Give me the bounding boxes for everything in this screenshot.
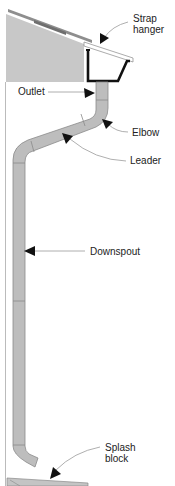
label-splash-block: Splash block	[105, 442, 136, 464]
splash-block-leader-line	[56, 447, 100, 470]
label-elbow: Elbow	[132, 127, 159, 138]
label-strap-hanger: Strap hanger	[133, 13, 164, 35]
elbow-arrow-icon	[102, 119, 113, 129]
strap-hanger-arrow-icon	[100, 33, 109, 44]
label-outlet: Outlet	[18, 86, 45, 97]
downspout-pipe	[13, 82, 108, 467]
outlet-arrow-icon	[84, 88, 95, 98]
leader-leader-line	[70, 139, 126, 161]
elbow-leader-line	[108, 124, 128, 132]
gutter-downspout-diagram: Strap hanger Outlet Elbow Leader Downspo…	[0, 0, 175, 486]
downspout-arrow-icon	[24, 246, 35, 256]
strap-hanger-leader-line	[104, 22, 128, 38]
splash-block-arrow-icon	[50, 467, 61, 479]
diagram-canvas	[0, 0, 175, 486]
splash-block	[7, 478, 88, 486]
label-downspout: Downspout	[90, 246, 140, 257]
roof-drip-edge	[84, 42, 133, 62]
label-leader: Leader	[130, 155, 161, 166]
